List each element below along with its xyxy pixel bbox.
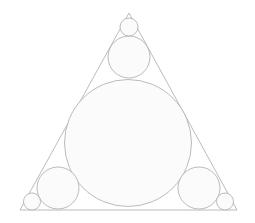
geometry-diagram [0,0,255,223]
bottom-left-corner-circle [24,193,41,210]
apex-malfatti-circle [108,36,150,78]
bottom-right-malfatti-circle [178,167,220,209]
bottom-right-corner-circle [217,193,234,210]
bottom-left-malfatti-circle [37,167,79,209]
figure-container [0,0,255,223]
incircle [65,80,192,207]
apex-corner-circle [120,18,138,36]
